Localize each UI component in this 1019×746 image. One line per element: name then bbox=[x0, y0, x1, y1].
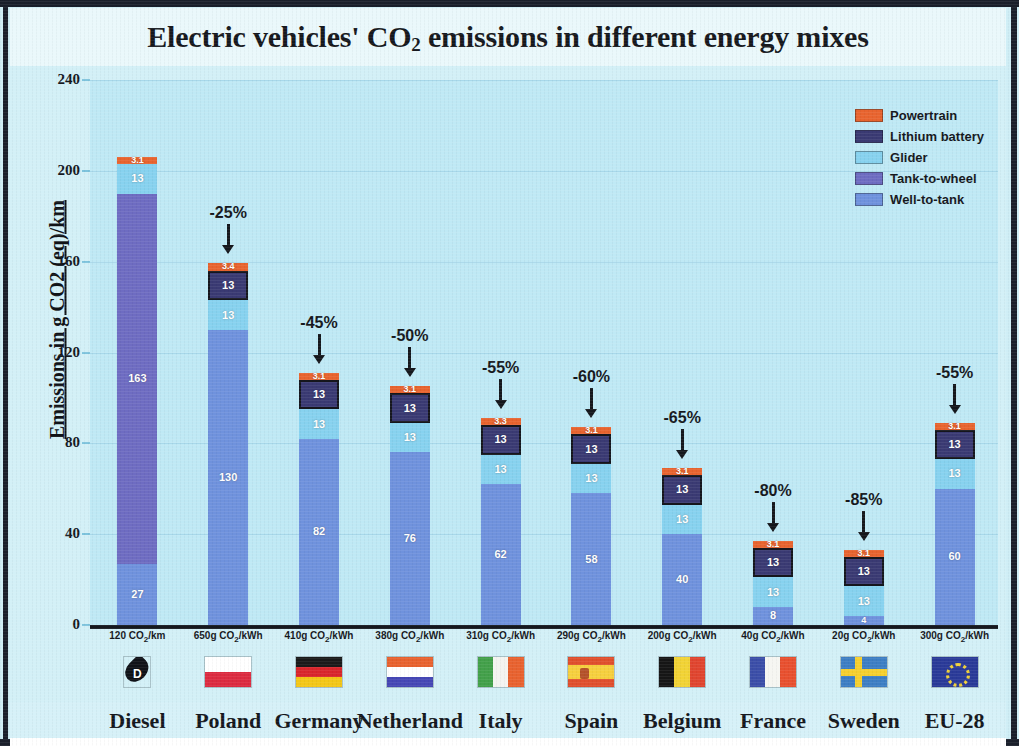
legend-item-powertrain[interactable]: Powertrain bbox=[855, 108, 984, 123]
stacked-bar[interactable]: 3.1131376 bbox=[390, 386, 430, 625]
reduction-annotation: -45% bbox=[279, 315, 359, 364]
stacked-bar[interactable]: 3.1131358 bbox=[571, 427, 611, 625]
stacked-bar[interactable]: 3.113134 bbox=[844, 550, 884, 625]
arrow-head bbox=[404, 368, 416, 377]
legend-item-tank-to-wheel[interactable]: Tank-to-wheel bbox=[855, 171, 984, 186]
bar-column[interactable]: 3.113134 bbox=[844, 550, 884, 625]
stacked-bar[interactable]: 3.11316327 bbox=[117, 157, 157, 625]
bar-segment-value: 62 bbox=[494, 549, 506, 560]
y-axis-tick-mark bbox=[82, 624, 90, 626]
legend-item-glider[interactable]: Glider bbox=[855, 150, 984, 165]
flag-stripe bbox=[387, 667, 433, 677]
flag-stripe bbox=[765, 657, 781, 687]
bar-column[interactable]: 3.3131362 bbox=[481, 418, 521, 625]
y-axis-tick-label: 0 bbox=[73, 616, 81, 633]
bar-segment-glider: 13 bbox=[844, 586, 884, 616]
bar-column[interactable]: 3.1131376 bbox=[390, 386, 430, 625]
bar-column[interactable]: 3.1131340 bbox=[662, 468, 702, 625]
bar-segment-value: 13 bbox=[948, 439, 960, 450]
legend-label: Glider bbox=[890, 150, 928, 165]
arrow-shaft bbox=[862, 511, 865, 532]
chart-title-band: Electric vehicles' CO2 emissions in diff… bbox=[10, 8, 1006, 66]
reduction-annotation: -60% bbox=[551, 369, 631, 418]
y-axis-title: Emissions in g CO2 (eq)/km bbox=[46, 185, 69, 455]
bar-segment-lithium-battery: 13 bbox=[935, 430, 975, 460]
y-axis-tick-mark bbox=[82, 533, 90, 535]
bar-segment-well-to-tank: 4 bbox=[844, 616, 884, 625]
bar-segment-powertrain: 3.1 bbox=[844, 550, 884, 557]
bar-segment-powertrain: 3.3 bbox=[481, 418, 521, 425]
bar-segment-value: 13 bbox=[131, 173, 143, 184]
reduction-annotation: -25% bbox=[188, 205, 268, 254]
y-axis-tick-label: 240 bbox=[58, 71, 81, 88]
bar-column[interactable]: 3.41313130 bbox=[208, 263, 248, 625]
bar-segment-well-to-tank: 40 bbox=[662, 534, 702, 625]
bar-column[interactable]: 3.1131360 bbox=[935, 423, 975, 625]
x-axis-sublabel: 380g CO2/kWh bbox=[364, 630, 455, 644]
legend-item-lithium-battery[interactable]: Lithium battery bbox=[855, 129, 984, 144]
arrow-head bbox=[313, 355, 325, 364]
bar-segment-value: 163 bbox=[128, 373, 146, 384]
arrow-head bbox=[676, 450, 688, 459]
x-axis-sublabel: 200g CO2/kWh bbox=[637, 630, 728, 644]
page-bottom-strip bbox=[10, 738, 1006, 746]
bar-segment-lithium-battery: 13 bbox=[208, 271, 248, 301]
arrow-shaft bbox=[590, 388, 593, 409]
flag-stripe bbox=[296, 677, 342, 687]
x-axis-sublabels: 120 CO2/km650g CO2/kWh410g CO2/kWh380g C… bbox=[90, 630, 998, 652]
y-axis-tick-label: 80 bbox=[65, 434, 80, 451]
x-axis-sublabel: 120 CO2/km bbox=[92, 630, 183, 644]
flag-stripe bbox=[750, 657, 766, 687]
arrow-shaft bbox=[772, 502, 775, 523]
bar-segment-glider: 13 bbox=[662, 505, 702, 535]
reduction-annotation: -65% bbox=[642, 410, 722, 459]
stacked-bar[interactable]: 3.113138 bbox=[753, 541, 793, 625]
stacked-bar[interactable]: 3.1131340 bbox=[662, 468, 702, 625]
bar-column[interactable]: 3.1131358 bbox=[571, 427, 611, 625]
chart-title-post: emissions in different energy mixes bbox=[421, 20, 869, 53]
bar-segment-well-to-tank: 130 bbox=[208, 330, 248, 625]
chart-title: Electric vehicles' CO2 emissions in diff… bbox=[147, 20, 868, 54]
x-axis-category-labels: DieselPolandGermanyNetherlandItalySpainB… bbox=[10, 702, 1006, 742]
flag-stripe bbox=[568, 679, 614, 687]
bar-segment-lithium-battery: 13 bbox=[299, 380, 339, 410]
bar-column[interactable]: 3.1131382 bbox=[299, 373, 339, 625]
down-arrow-icon bbox=[496, 379, 506, 409]
flag-france-icon bbox=[728, 656, 819, 688]
flag-stripe bbox=[690, 657, 706, 687]
bar-segment-glider: 13 bbox=[117, 164, 157, 194]
legend-item-well-to-tank[interactable]: Well-to-tank bbox=[855, 192, 984, 207]
legend-swatch-icon bbox=[855, 109, 883, 122]
down-arrow-icon bbox=[859, 511, 869, 541]
flag-stripe bbox=[568, 665, 614, 680]
bar-segment-lithium-battery: 13 bbox=[844, 557, 884, 587]
flag-germany-icon bbox=[274, 656, 365, 688]
x-axis-line bbox=[90, 625, 998, 629]
bar-segment-glider: 13 bbox=[390, 423, 430, 453]
reduction-annotation-label: -55% bbox=[936, 365, 973, 381]
arrow-head bbox=[949, 405, 961, 414]
x-axis-sublabel: 650g CO2/kWh bbox=[183, 630, 274, 644]
stacked-bar[interactable]: 3.1131360 bbox=[935, 423, 975, 625]
x-axis-sublabel: 20g CO2/kWh bbox=[818, 630, 909, 644]
bar-segment-value: 13 bbox=[858, 596, 870, 607]
bar-segment-glider: 13 bbox=[208, 300, 248, 330]
arrow-shaft bbox=[681, 429, 684, 450]
bar-segment-lithium-battery: 13 bbox=[571, 434, 611, 464]
bar-segment-well-to-tank: 8 bbox=[753, 607, 793, 625]
bar-column[interactable]: 3.113138 bbox=[753, 541, 793, 625]
arrow-head bbox=[585, 409, 597, 418]
flag-stripe bbox=[478, 657, 494, 687]
stacked-bar[interactable]: 3.41313130 bbox=[208, 263, 248, 625]
bar-segment-value: 13 bbox=[676, 514, 688, 525]
legend-label: Powertrain bbox=[890, 108, 957, 123]
down-arrow-icon bbox=[314, 334, 324, 364]
bar-segment-value: 13 bbox=[222, 280, 234, 291]
bar-segment-value: 13 bbox=[404, 432, 416, 443]
bar-segment-value: 13 bbox=[767, 557, 779, 568]
bar-segment-tank-to-wheel: 163 bbox=[117, 194, 157, 564]
flag-emblem bbox=[580, 668, 589, 679]
stacked-bar[interactable]: 3.1131382 bbox=[299, 373, 339, 625]
bar-column[interactable]: 3.11316327 bbox=[117, 157, 157, 625]
stacked-bar[interactable]: 3.3131362 bbox=[481, 418, 521, 625]
